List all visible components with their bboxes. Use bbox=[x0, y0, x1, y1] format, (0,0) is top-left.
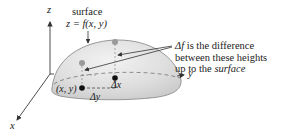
delta-x-label: Δx bbox=[111, 80, 121, 90]
surface-diagram: z y x surface z = f(x, y) Δf is the diff… bbox=[0, 0, 290, 135]
x-axis bbox=[17, 74, 50, 120]
lower-surface-point bbox=[79, 60, 85, 66]
annotation-line2: between these heights bbox=[175, 52, 267, 64]
upper-surface-point bbox=[112, 39, 118, 45]
surface-equation: z = f(x, y) bbox=[66, 19, 107, 30]
surface-label: surface bbox=[72, 7, 102, 18]
delta-f-symbol: Δf bbox=[175, 40, 184, 51]
x-axis-label: x bbox=[10, 121, 15, 132]
point-xy-label: (x, y) bbox=[56, 84, 77, 94]
annotation-surface-word: surface bbox=[214, 63, 245, 74]
delta-y-label: Δy bbox=[90, 92, 100, 102]
delta-f-annotation: Δf is the difference between these heigh… bbox=[175, 40, 267, 75]
base-point-xy bbox=[79, 85, 85, 91]
annotation-line1: is the difference bbox=[184, 40, 254, 51]
annotation-line3: up to the bbox=[175, 63, 214, 74]
z-axis-label: z bbox=[47, 5, 51, 16]
